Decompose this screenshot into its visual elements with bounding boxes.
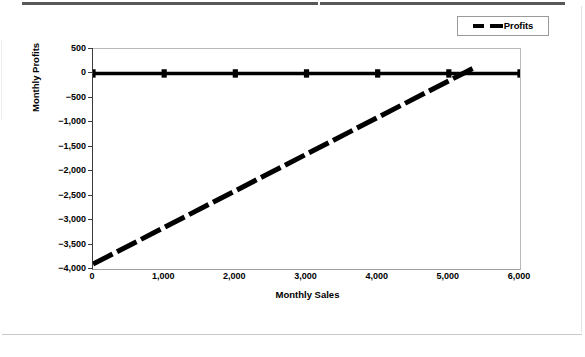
y-axis-tick-label: −1,000 — [40, 117, 86, 126]
x-axis-tick-label: 4,000 — [347, 272, 407, 281]
page-top-rule-left — [22, 2, 318, 5]
x-axis-tick-label: 0 — [62, 272, 122, 281]
y-axis-tick-mark — [88, 72, 93, 73]
data-point-marker — [304, 69, 309, 77]
y-axis-tick-label: −3,500 — [40, 240, 86, 249]
data-point-marker — [446, 69, 451, 77]
x-axis-tick-label: 5,000 — [418, 272, 478, 281]
data-point-marker — [162, 69, 167, 77]
plot-series-svg — [93, 49, 520, 269]
page-top-rule-right — [320, 2, 565, 5]
y-axis-tick-label: −500 — [40, 93, 86, 102]
x-axis-tick-labels: 01,0002,0003,0004,0005,0006,000 — [0, 272, 585, 286]
chart-page: Profits 5000−500−1,000−1,500−2,000−2,500… — [0, 0, 585, 357]
dashed-line-swatch-icon — [473, 24, 503, 28]
y-axis-tick-label: 0 — [40, 68, 86, 77]
y-axis-tick-label: −1,500 — [40, 142, 86, 151]
y-axis-tick-label: −2,500 — [40, 191, 86, 200]
y-axis-tick-mark — [88, 219, 93, 220]
legend-entry-profits: Profits — [458, 17, 548, 35]
x-axis-title: Monthly Sales — [0, 289, 585, 300]
y-axis-tick-mark — [88, 121, 93, 122]
plot-area — [92, 48, 521, 270]
y-axis-tick-label: −3,000 — [40, 215, 86, 224]
page-left-edge — [1, 40, 2, 120]
series-line-profits — [93, 68, 474, 264]
y-axis-tick-mark — [88, 195, 93, 196]
y-axis-tick-mark — [88, 170, 93, 171]
y-axis-tick-mark — [88, 146, 93, 147]
y-axis-tick-mark — [88, 244, 93, 245]
x-axis-tick-label: 1,000 — [133, 272, 193, 281]
y-axis-tick-label: 500 — [40, 44, 86, 53]
y-axis-title: Monthly Profits — [30, 43, 41, 112]
data-point-marker — [233, 69, 238, 77]
data-point-marker — [517, 69, 520, 77]
x-axis-tick-label: 6,000 — [489, 272, 549, 281]
y-axis-tick-label: −2,000 — [40, 166, 86, 175]
legend-label-profits: Profits — [504, 21, 533, 31]
x-axis-tick-label: 3,000 — [276, 272, 336, 281]
y-axis-tick-mark — [88, 97, 93, 98]
y-axis-title-text: Monthly Profits — [30, 43, 41, 112]
chart-legend: Profits — [457, 16, 549, 36]
page-bottom-rule — [2, 334, 582, 335]
y-axis-tick-mark — [88, 268, 93, 269]
y-axis-tick-mark — [88, 48, 93, 49]
x-axis-title-text: Monthly Sales — [276, 289, 340, 300]
data-point-marker — [375, 69, 380, 77]
data-point-marker — [93, 69, 96, 77]
y-axis-tick-labels: 5000−500−1,000−1,500−2,000−2,500−3,000−3… — [38, 48, 86, 269]
x-axis-tick-label: 2,000 — [204, 272, 264, 281]
